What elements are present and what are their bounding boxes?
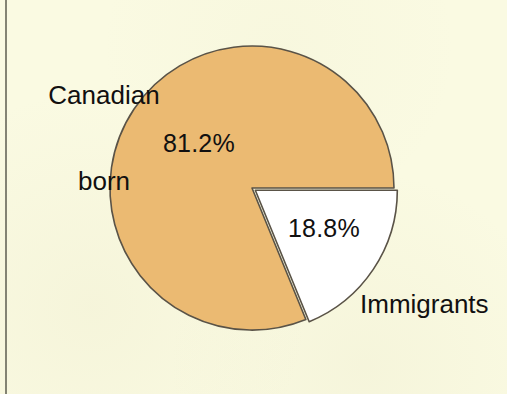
- pie-label-canadian-born-line1: Canadian: [34, 81, 174, 110]
- pie-label-immigrants: Immigrants: [360, 290, 489, 319]
- pie-value-immigrants: 18.8%: [288, 215, 360, 243]
- pie-label-canadian-born: Canadian born: [34, 24, 174, 253]
- pie-label-canadian-born-line2: born: [34, 167, 174, 196]
- pie-chart-figure: Canadian born 81.2% 18.8% Immigrants: [0, 0, 507, 394]
- pie-value-canadian-born: 81.2%: [163, 130, 235, 158]
